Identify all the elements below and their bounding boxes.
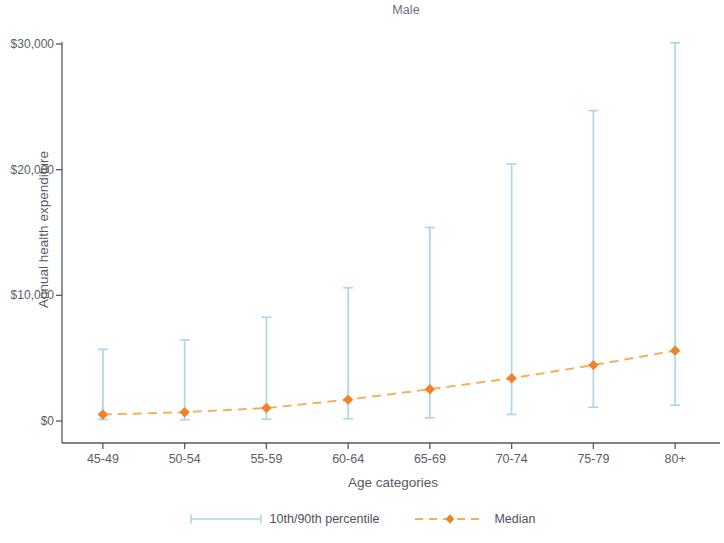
y-tick-label: $30,000 bbox=[11, 37, 54, 51]
percentile-legend-key-icon bbox=[189, 512, 263, 526]
chart-title: Male bbox=[44, 3, 724, 17]
median-legend-key-icon bbox=[413, 512, 487, 526]
legend-entry-percentile: 10th/90th percentile bbox=[189, 512, 380, 526]
x-tick-label: 60-64 bbox=[332, 452, 364, 466]
x-tick-label: 50-54 bbox=[169, 452, 201, 466]
chart-figure: Male Annual health expenditure Age categ… bbox=[0, 0, 724, 543]
legend-label-median: Median bbox=[494, 512, 535, 526]
y-tick-label: $10,000 bbox=[11, 288, 54, 302]
chart-legend: 10th/90th percentile Median bbox=[0, 512, 724, 526]
y-tick-label: $20,000 bbox=[11, 163, 54, 177]
legend-entry-median: Median bbox=[413, 512, 535, 526]
legend-label-percentile: 10th/90th percentile bbox=[270, 512, 380, 526]
x-tick-label: 65-69 bbox=[414, 452, 446, 466]
x-tick-label: 75-79 bbox=[577, 452, 609, 466]
x-tick-label: 80+ bbox=[665, 452, 686, 466]
x-tick-label: 70-74 bbox=[496, 452, 528, 466]
x-tick-label: 55-59 bbox=[250, 452, 282, 466]
y-tick-label: $0 bbox=[41, 414, 54, 428]
x-tick-label: 45-49 bbox=[87, 452, 119, 466]
x-axis-title: Age categories bbox=[62, 475, 724, 490]
y-axis-tick-labels: $0$10,000$20,000$30,000 bbox=[0, 0, 54, 543]
